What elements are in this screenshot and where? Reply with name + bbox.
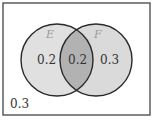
e-only-value: 0.2	[37, 53, 56, 67]
set-label-f: F	[93, 28, 102, 41]
set-label-e: E	[45, 28, 54, 41]
f-only-value: 0.3	[100, 53, 119, 67]
venn-diagram: E F 0.2 0.2 0.3 0.3	[0, 0, 155, 124]
outside-value: 0.3	[10, 97, 29, 111]
intersection-value: 0.2	[68, 53, 87, 67]
